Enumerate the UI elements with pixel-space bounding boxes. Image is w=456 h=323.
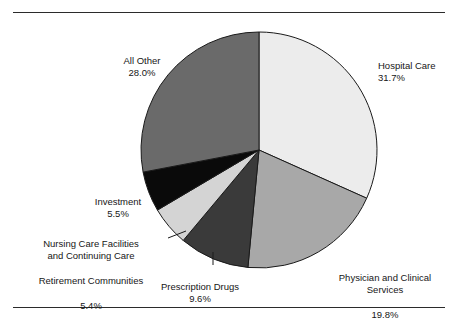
slice-label-physician-line2: Services bbox=[318, 284, 452, 297]
slice-label-hospital-care-pct: 31.7% bbox=[378, 72, 452, 85]
pie-chart-figure: Hospital Care 31.7% Physician and Clinic… bbox=[0, 0, 456, 323]
slice-label-nursing-care-facilities: Nursing Care Facilities and Continuing C… bbox=[8, 225, 174, 323]
slice-label-physician-and-clinical-services: Physician and Clinical Services 19.8% bbox=[318, 259, 452, 323]
slice-label-investment-pct: 5.5% bbox=[62, 208, 174, 221]
slice-label-all-other-name: All Other bbox=[124, 55, 161, 66]
slice-label-physician-line1: Physician and Clinical bbox=[339, 272, 431, 283]
slice-label-nursing-line2: and Continuing Care bbox=[8, 250, 174, 263]
slice-label-nursing-line3: Retirement Communities bbox=[8, 275, 174, 288]
slice-label-physician-pct: 19.8% bbox=[318, 309, 452, 322]
slice-label-nursing-pct: 5.4% bbox=[8, 300, 174, 313]
slice-label-hospital-care: Hospital Care 31.7% bbox=[378, 47, 452, 97]
slice-label-investment-name: Investment bbox=[95, 196, 141, 207]
slice-label-all-other: All Other 28.0% bbox=[86, 42, 198, 92]
slice-label-hospital-care-name: Hospital Care bbox=[378, 60, 436, 71]
slice-label-nursing-line1: Nursing Care Facilities bbox=[43, 238, 139, 249]
slice-label-all-other-pct: 28.0% bbox=[86, 67, 198, 80]
slice-label-investment: Investment 5.5% bbox=[62, 183, 174, 233]
